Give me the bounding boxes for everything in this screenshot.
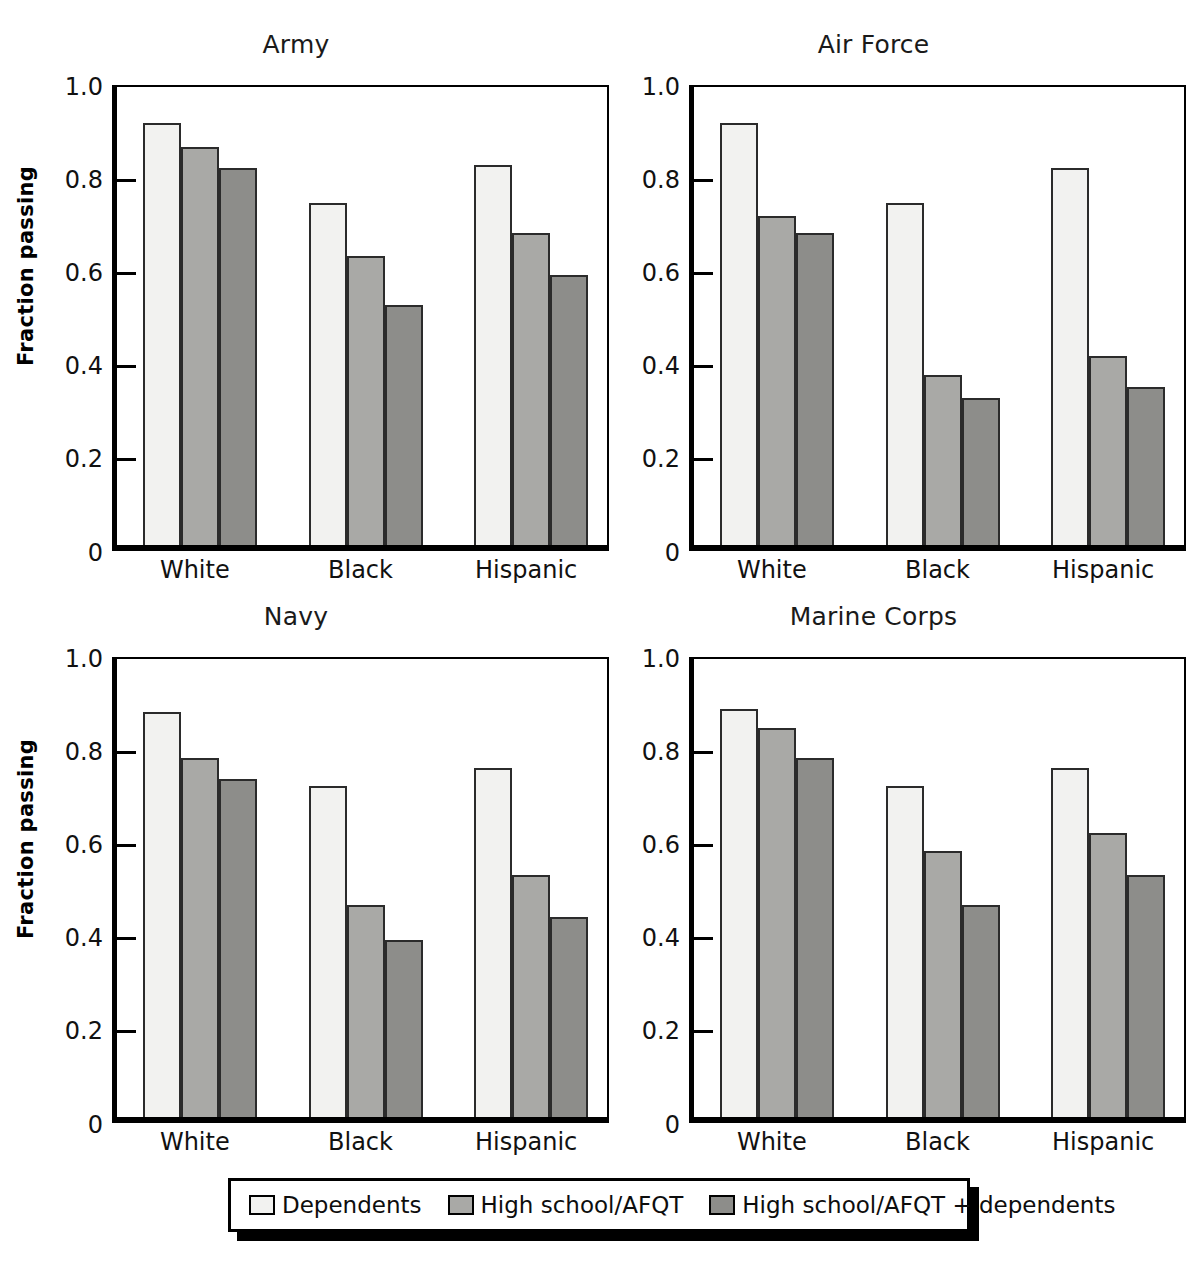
bar [309,203,347,546]
bar [474,768,512,1118]
y-axis-tick-label: 1.0 [642,645,680,673]
y-axis-tick-label: 0.8 [642,166,680,194]
bar [512,233,550,545]
y-axis-label: Fraction passing [6,0,46,572]
y-axis-tick-label: 1.0 [65,645,103,673]
y-axis-tick-label: 0.2 [65,445,103,473]
y-axis-tick-label: 0.6 [642,831,680,859]
chart-panel-grid: ArmyFraction passing00.20.40.60.81.0Whit… [0,0,1185,1145]
y-axis-tick-label: 0 [665,539,680,567]
plot-area: 00.20.40.60.81.0 [689,657,1186,1123]
x-axis-category-label: Black [328,1128,393,1156]
legend-label: High school/AFQT + dependents [742,1192,1115,1218]
legend-swatch-icon [448,1195,474,1215]
bar [886,203,924,546]
y-axis-tick-label: 0.6 [65,831,103,859]
chart-panel-navy: NavyFraction passing00.20.40.60.81.0Whit… [0,572,592,1145]
bar-series-container [117,87,607,545]
bar [886,786,924,1117]
bar [309,786,347,1117]
bar [550,917,588,1117]
plot-inner: 00.20.40.60.81.0 [694,87,1184,545]
bar [347,256,385,545]
legend-item: High school/AFQT [448,1192,684,1218]
y-axis-tick-label: 0.2 [65,1017,103,1045]
bar [219,168,257,545]
bar [962,398,1000,545]
x-axis-categories: WhiteBlackHispanic [112,1128,609,1168]
y-axis-tick-label: 0 [665,1111,680,1139]
bar [474,165,512,545]
panel-title: Navy [0,602,592,631]
chart-legend: DependentsHigh school/AFQTHigh school/AF… [228,1178,970,1232]
plot-inner: 00.20.40.60.81.0 [117,87,607,545]
bar [550,275,588,545]
y-axis-tick: 0 [117,552,136,555]
x-axis-category-label: Hispanic [475,1128,577,1156]
y-axis-tick-label: 0.8 [65,738,103,766]
legend-swatch-icon [709,1195,735,1215]
chart-panel-marine-corps: Marine Corps00.20.40.60.81.0WhiteBlackHi… [592,572,1185,1145]
bar [758,728,796,1117]
y-axis-tick-label: 0.8 [642,738,680,766]
x-axis-category-label: White [737,1128,807,1156]
legend-item: High school/AFQT + dependents [709,1192,1115,1218]
bar [219,779,257,1117]
plot-area: 00.20.40.60.81.0 [112,657,609,1123]
bar [720,123,758,545]
bar [181,758,219,1117]
x-axis-category-label: White [160,1128,230,1156]
bar-series-container [117,659,607,1117]
y-axis-tick-label: 1.0 [642,73,680,101]
bar [1127,875,1165,1117]
bar [796,233,834,545]
legend-box: DependentsHigh school/AFQTHigh school/AF… [228,1178,970,1232]
y-axis-tick-label: 0.6 [65,259,103,287]
y-axis-tick: 0 [694,1124,713,1127]
y-axis-tick-label: 0.2 [642,1017,680,1045]
y-axis-tick: 0 [117,1124,136,1127]
bar [512,875,550,1117]
bar [143,123,181,545]
y-axis-tick-label: 0 [88,1111,103,1139]
y-axis-tick: 0 [694,552,713,555]
bar [385,940,423,1117]
plot-area: 00.20.40.60.81.0 [689,85,1186,551]
x-axis-categories: WhiteBlackHispanic [689,1128,1186,1168]
y-axis-tick-label: 0.4 [65,352,103,380]
panel-title: Air Force [592,30,1185,59]
y-axis-label-text: Fraction passing [14,166,38,366]
legend-label: Dependents [282,1192,422,1218]
bar [1127,387,1165,545]
y-axis-tick-label: 0.8 [65,166,103,194]
bar [720,709,758,1117]
y-axis-tick-label: 0.4 [642,924,680,952]
x-axis-category-label: Hispanic [1052,1128,1154,1156]
y-axis-tick-label: 0.4 [65,924,103,952]
bar [1089,356,1127,545]
bar [143,712,181,1117]
legend-item: Dependents [249,1192,422,1218]
bar-series-container [694,659,1184,1117]
bar [385,305,423,545]
panel-title: Marine Corps [592,602,1185,631]
chart-panel-air-force: Air Force00.20.40.60.81.0WhiteBlackHispa… [592,0,1185,572]
bar [924,375,962,545]
y-axis-tick-label: 0.2 [642,445,680,473]
bar [924,851,962,1117]
bar [758,216,796,545]
legend-swatch-icon [249,1195,275,1215]
bar [181,147,219,545]
y-axis-label: Fraction passing [6,572,46,1145]
legend-label: High school/AFQT [481,1192,684,1218]
chart-panel-army: ArmyFraction passing00.20.40.60.81.0Whit… [0,0,592,572]
y-axis-tick-label: 0.4 [642,352,680,380]
plot-inner: 00.20.40.60.81.0 [694,659,1184,1117]
bar [347,905,385,1117]
y-axis-label-text: Fraction passing [14,738,38,938]
bar [962,905,1000,1117]
bar [1051,768,1089,1118]
y-axis-tick-label: 0 [88,539,103,567]
x-axis-category-label: Black [905,1128,970,1156]
plot-area: 00.20.40.60.81.0 [112,85,609,551]
